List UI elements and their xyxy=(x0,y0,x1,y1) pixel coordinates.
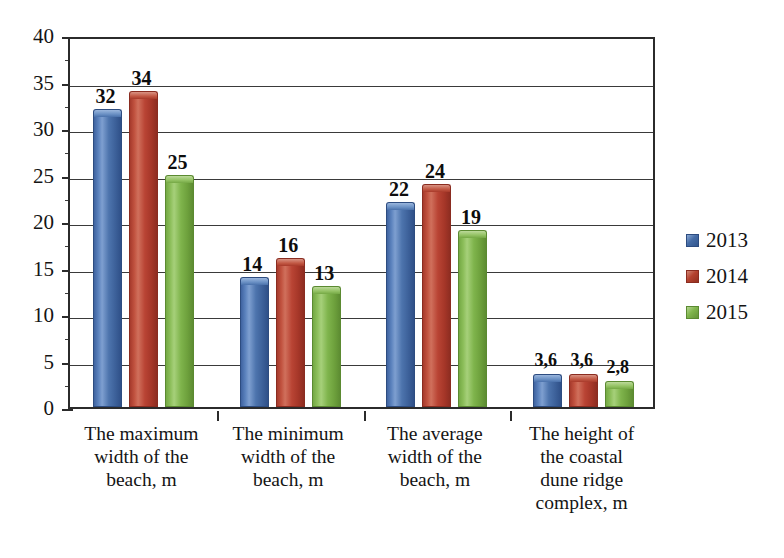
category-label: The minimumwidth of thebeach, m xyxy=(215,422,362,491)
bar-top-cap xyxy=(386,202,415,210)
legend-item-2015[interactable]: 2015 xyxy=(686,294,748,330)
x-axis-group-separator xyxy=(364,411,366,421)
bar-top-cap xyxy=(240,277,269,285)
x-axis-group-separator xyxy=(510,411,512,421)
y-tick-label: 30 xyxy=(8,119,54,140)
data-label: 19 xyxy=(442,207,499,227)
x-axis-group-separator xyxy=(217,411,219,421)
y-tick-label: 25 xyxy=(8,166,54,187)
legend-label: 2015 xyxy=(706,302,748,323)
bar-body xyxy=(458,235,487,407)
category-label-line: dune ridge xyxy=(508,468,655,491)
category-label-line: width of the xyxy=(215,445,362,468)
bar-body xyxy=(386,207,415,407)
bar-2015-cat3 xyxy=(458,230,487,407)
legend-label: 2014 xyxy=(706,266,748,287)
data-label: 25 xyxy=(149,152,206,172)
y-tick-label: 5 xyxy=(8,352,54,373)
bar-chart: 0510152025303540 3234251416132224193,63,… xyxy=(0,0,784,558)
legend-swatch-icon xyxy=(686,234,699,247)
legend-swatch-icon xyxy=(686,270,699,283)
bar-body xyxy=(240,282,269,407)
category-label-line: The average xyxy=(362,422,509,445)
y-tick-label: 0 xyxy=(8,398,54,419)
y-tick-label: 35 xyxy=(8,73,54,94)
bar-body xyxy=(93,114,122,407)
bar-2014-cat1 xyxy=(129,91,158,407)
category-label: The averagewidth of thebeach, m xyxy=(362,422,509,491)
category-label-line: beach, m xyxy=(362,468,509,491)
data-label: 16 xyxy=(260,235,317,255)
category-label: The maximumwidth of thebeach, m xyxy=(68,422,215,491)
category-label-line: The maximum xyxy=(68,422,215,445)
bar-2013-cat4 xyxy=(533,374,562,407)
category-label-line: width of the xyxy=(68,445,215,468)
bar-body xyxy=(276,263,305,407)
data-label: 22 xyxy=(370,179,427,199)
bar-2013-cat2 xyxy=(240,277,269,407)
bar-2015-cat1 xyxy=(165,175,194,408)
legend-item-2013[interactable]: 2013 xyxy=(686,222,748,258)
bar-2013-cat1 xyxy=(93,109,122,407)
bar-body xyxy=(605,386,634,407)
bar-top-cap xyxy=(458,230,487,238)
y-tick-label: 40 xyxy=(8,26,54,47)
data-label: 14 xyxy=(224,254,281,274)
legend-item-2014[interactable]: 2014 xyxy=(686,258,748,294)
bar-body xyxy=(569,379,598,407)
bar-body xyxy=(165,180,194,408)
data-label: 24 xyxy=(406,161,463,181)
legend-swatch-icon xyxy=(686,306,699,319)
data-label: 2,8 xyxy=(589,358,646,376)
legend: 201320142015 xyxy=(686,222,748,330)
category-label-line: The height of xyxy=(508,422,655,445)
bar-top-cap xyxy=(533,374,562,382)
category-label-line: beach, m xyxy=(68,468,215,491)
category-label: The height ofthe coastaldune ridgecomple… xyxy=(508,422,655,514)
data-label: 13 xyxy=(296,263,353,283)
category-label-line: complex, m xyxy=(508,491,655,514)
data-label: 34 xyxy=(113,68,170,88)
data-label: 32 xyxy=(77,86,134,106)
category-label-line: width of the xyxy=(362,445,509,468)
category-label-line: The minimum xyxy=(215,422,362,445)
bar-2015-cat4 xyxy=(605,381,634,407)
bar-body xyxy=(312,291,341,407)
bar-top-cap xyxy=(165,175,194,183)
bar-body xyxy=(533,379,562,407)
y-tick-mark xyxy=(62,409,73,411)
y-tick-label: 15 xyxy=(8,259,54,280)
bar-2013-cat3 xyxy=(386,202,415,407)
bar-top-cap xyxy=(93,109,122,117)
legend-label: 2013 xyxy=(706,230,748,251)
category-label-line: beach, m xyxy=(215,468,362,491)
y-tick-label: 10 xyxy=(8,305,54,326)
bar-2014-cat4 xyxy=(569,374,598,407)
bar-body xyxy=(129,96,158,407)
category-label-line: the coastal xyxy=(508,445,655,468)
bar-2015-cat2 xyxy=(312,286,341,407)
bar-top-cap xyxy=(605,381,634,389)
bar-top-cap xyxy=(312,286,341,294)
y-tick-label: 20 xyxy=(8,212,54,233)
